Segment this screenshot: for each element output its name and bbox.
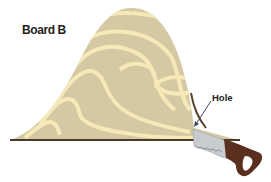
board-title: Board B — [22, 23, 66, 37]
hole-label: Hole — [212, 92, 233, 103]
saw-icon — [193, 129, 262, 176]
board-b-diagram: Board B Hole — [0, 0, 271, 182]
